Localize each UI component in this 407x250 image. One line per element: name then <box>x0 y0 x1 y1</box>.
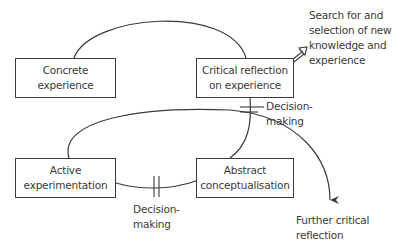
further-line2: reflection <box>296 228 369 243</box>
node-abstract-conceptualisation: Abstract conceptualisation <box>196 158 294 198</box>
search-line3: knowledge and <box>309 38 392 53</box>
annotation-search-new-knowledge: Search for and selection of new knowledg… <box>309 8 392 68</box>
decision-bottom-line1: Decision- <box>133 202 180 217</box>
hollow-arrow-icon <box>292 47 307 62</box>
node-concrete-line2: experience <box>37 78 93 93</box>
annotation-decision-making-right: Decision- making <box>266 99 313 129</box>
node-active-line1: Active <box>50 163 81 178</box>
annotation-further-critical-reflection: Further critical reflection <box>296 213 369 243</box>
arc-concrete-to-critical <box>74 21 246 58</box>
node-concrete-line1: Concrete <box>43 63 89 78</box>
search-line4: experience <box>309 53 392 68</box>
node-active-line2: experimentation <box>24 178 108 193</box>
node-critical-line1: Critical reflection <box>202 63 288 78</box>
decision-right-line1: Decision- <box>266 99 313 114</box>
curve-abstract-to-active <box>116 181 196 188</box>
node-critical-line2: on experience <box>209 78 281 93</box>
decision-marker-bottom <box>154 176 159 197</box>
node-concrete-experience: Concrete experience <box>15 58 116 98</box>
search-line2: selection of new <box>309 23 392 38</box>
search-line1: Search for and <box>309 8 392 23</box>
annotation-decision-making-bottom: Decision- making <box>133 202 180 232</box>
node-critical-reflection: Critical reflection on experience <box>196 58 294 98</box>
further-line1: Further critical <box>296 213 369 228</box>
node-abstract-line2: conceptualisation <box>200 178 289 193</box>
decision-bottom-line2: making <box>133 217 180 232</box>
node-abstract-line1: Abstract <box>224 163 266 178</box>
decision-right-line2: making <box>266 114 313 129</box>
node-active-experimentation: Active experimentation <box>15 158 116 198</box>
